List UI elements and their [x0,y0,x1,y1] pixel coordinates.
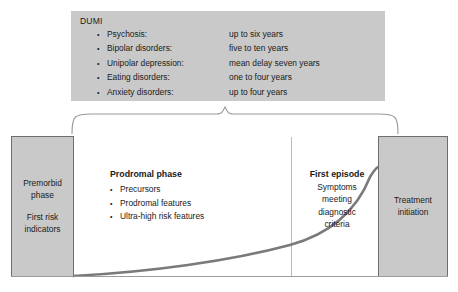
prodromal-feature-list: • Precursors • Prodromal features • Ultr… [110,183,260,224]
dumi-title: DUMI [80,16,103,26]
dumi-row-value: five to ten years [229,41,383,55]
list-item: • Prodromal features [110,197,260,211]
dumi-row-label: Anxiety disorders: [107,85,229,99]
first-episode-line-1: Symptoms [296,181,378,193]
premorbid-line-3: First risk [27,212,59,224]
stage-divider [291,137,292,276]
bullet-icon: • [110,197,120,211]
dumi-row: • Bipolar disorders: five to ten years [97,41,383,55]
prodromal-item-label: Prodromal features [120,197,191,211]
bullet-icon: • [97,71,107,85]
premorbid-line-1: Premorbid [23,178,62,190]
dumi-row-value: mean delay seven years [229,56,383,70]
first-episode-block: First episode Symptoms meeting diagnosti… [296,168,378,231]
premorbid-line-4: indicators [25,224,61,236]
dumi-row: • Anxiety disorders: up to four years [97,85,383,99]
curly-brace-icon [72,107,398,134]
bullet-icon: • [97,57,107,71]
bullet-icon: • [97,28,107,42]
dumi-row: • Eating disorders: one to four years [97,70,383,84]
frame-baseline [11,276,448,277]
prodromal-item-label: Precursors [120,183,161,197]
bullet-icon: • [97,42,107,56]
prodromal-heading: Prodromal phase [110,168,260,180]
first-episode-heading: First episode [296,168,378,180]
bullet-icon: • [97,86,107,100]
dumi-row: • Psychosis: up to six years [97,27,383,41]
treatment-line-2: initiation [398,207,429,219]
dumi-row-value: up to six years [229,27,383,41]
treatment-initiation-box: Treatment initiation [378,136,448,277]
first-episode-line-4: criteria [296,218,378,230]
dumi-row-value: one to four years [229,70,383,84]
list-item: • Ultra-high risk features [110,210,260,224]
dumi-row-value: up to four years [229,85,383,99]
dumi-row: • Unipolar depression: mean delay seven … [97,56,383,70]
dumi-row-label: Eating disorders: [107,70,229,84]
premorbid-phase-box: Premorbid phase First risk indicators [11,136,74,277]
treatment-line-1: Treatment [394,195,432,207]
prodromal-item-label: Ultra-high risk features [120,210,204,224]
dumi-row-label: Psychosis: [107,27,229,41]
illness-stages-diagram: DUMI • Psychosis: up to six years • Bipo… [0,0,458,292]
dumi-row-label: Unipolar depression: [107,56,229,70]
list-item: • Precursors [110,183,260,197]
dumi-panel: DUMI • Psychosis: up to six years • Bipo… [71,11,385,101]
bullet-icon: • [110,183,120,197]
first-episode-line-3: diagnostic [296,206,378,218]
prodromal-phase-block: Prodromal phase • Precursors • Prodromal… [110,168,260,224]
bullet-icon: • [110,210,120,224]
premorbid-line-2: phase [31,190,54,202]
dumi-row-label: Bipolar disorders: [107,41,229,55]
first-episode-line-2: meeting [296,193,378,205]
dumi-row-list: • Psychosis: up to six years • Bipolar d… [97,27,383,99]
